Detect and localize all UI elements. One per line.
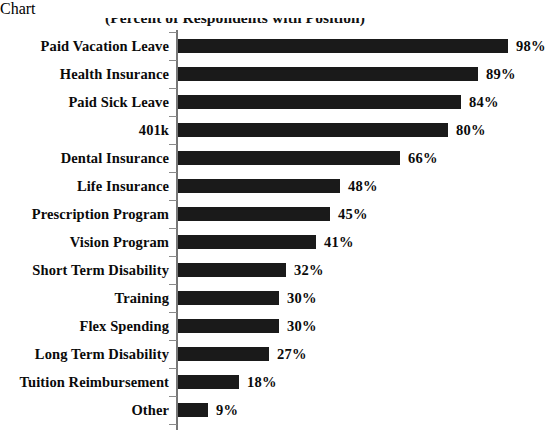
bar (178, 319, 279, 333)
bar-value-label: 80% (456, 122, 486, 139)
chart-title: (Percent of Respondents with Position) (0, 18, 470, 27)
bar (178, 403, 208, 417)
bar-row: Health Insurance89% (0, 60, 555, 88)
bar-value-label: 32% (294, 262, 324, 279)
bar-value-label: 27% (277, 346, 307, 363)
category-label: Prescription Program (32, 206, 169, 223)
bar (178, 151, 400, 165)
bar-value-label: 30% (287, 318, 317, 335)
bar-value-label: 98% (516, 38, 546, 55)
bar-value-label: 48% (348, 178, 378, 195)
category-label: Dental Insurance (61, 150, 169, 167)
bar-row: Flex Spending30% (0, 312, 555, 340)
axis-tick (169, 424, 177, 425)
bar-row: Long Term Disability27% (0, 340, 555, 368)
bar-row: Other9% (0, 396, 555, 424)
category-label: Long Term Disability (35, 346, 169, 363)
bar-row: Vision Program41% (0, 228, 555, 256)
bar-value-label: 41% (324, 234, 354, 251)
category-label: Paid Vacation Leave (41, 38, 169, 55)
category-label: Health Insurance (60, 66, 169, 83)
bar-value-label: 89% (486, 66, 516, 83)
bar-row: Tuition Reimbursement18% (0, 368, 555, 396)
bar (178, 375, 239, 389)
category-label: Vision Program (70, 234, 169, 251)
bar-value-label: 45% (338, 206, 368, 223)
bar-chart: (Percent of Respondents with Position) P… (0, 18, 555, 433)
category-label: Short Term Disability (32, 262, 169, 279)
category-label: Other (131, 402, 169, 419)
bar (178, 179, 340, 193)
bar (178, 95, 461, 109)
category-label: Life Insurance (77, 178, 169, 195)
bar (178, 235, 316, 249)
category-label: 401k (139, 122, 169, 139)
bar-value-label: 66% (408, 150, 438, 167)
bar-row: Prescription Program45% (0, 200, 555, 228)
category-label: Paid Sick Leave (68, 94, 169, 111)
plot-area: Paid Vacation Leave98%Health Insurance89… (0, 30, 555, 430)
bar-value-label: 84% (469, 94, 499, 111)
bar-value-label: 18% (247, 374, 277, 391)
bar-value-label: 30% (287, 290, 317, 307)
bar-row: Paid Sick Leave84% (0, 88, 555, 116)
bar-row: Life Insurance48% (0, 172, 555, 200)
bar-row: Paid Vacation Leave98% (0, 32, 555, 60)
bar (178, 347, 269, 361)
bar-row: Short Term Disability32% (0, 256, 555, 284)
bar (178, 263, 286, 277)
bar (178, 123, 448, 137)
bar-value-label: 9% (216, 402, 238, 419)
category-label: Flex Spending (79, 318, 169, 335)
category-label: Tuition Reimbursement (20, 374, 169, 391)
bar-row: 401k80% (0, 116, 555, 144)
bar (178, 67, 478, 81)
bar (178, 207, 330, 221)
bar (178, 39, 508, 53)
bar-row: Training30% (0, 284, 555, 312)
bar-row: Dental Insurance66% (0, 144, 555, 172)
category-label: Training (114, 290, 169, 307)
bar (178, 291, 279, 305)
